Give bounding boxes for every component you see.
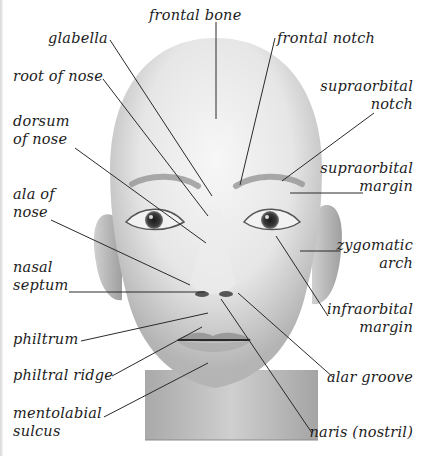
label-philtrum: philtrum	[13, 330, 78, 348]
label-supraorbital-notch: supraorbital notch	[320, 77, 413, 113]
label-mentolabial-sulcus: mentolabial sulcus	[13, 404, 102, 440]
label-glabella: glabella	[48, 29, 108, 47]
label-zygomatic-arch: zygomatic arch	[336, 236, 413, 272]
label-supraorbital-margin: supraorbital margin	[320, 159, 413, 195]
label-dorsum-of-nose: dorsum of nose	[13, 112, 70, 148]
label-naris-nostril: naris (nostril)	[310, 423, 413, 441]
label-frontal-bone: frontal bone	[149, 6, 241, 24]
label-philtral-ridge: philtral ridge	[13, 366, 113, 384]
label-frontal-notch: frontal notch	[277, 29, 375, 47]
right-nostril	[219, 291, 233, 297]
label-root-of-nose: root of nose	[13, 67, 103, 85]
anatomy-diagram: frontal bone frontal notch glabella root…	[0, 0, 421, 456]
label-nasal-septum: nasal septum	[13, 258, 68, 294]
label-alar-groove: alar groove	[327, 368, 413, 386]
label-infraorbital-margin: infraorbital margin	[327, 300, 413, 336]
label-ala-of-nose: ala of nose	[13, 185, 55, 221]
